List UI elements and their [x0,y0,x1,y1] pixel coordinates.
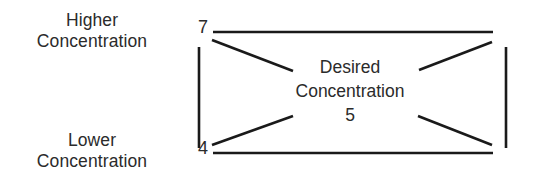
lower-concentration-line1: Lower [68,130,116,150]
desired-concentration-value: 5 [260,103,440,127]
higher-concentration-line2: Concentration [37,31,147,51]
upper-bound-value: 7 [186,17,208,38]
lower-concentration-line2: Concentration [37,151,147,171]
higher-concentration-line1: Higher [66,10,118,30]
lower-bound-value: 4 [186,138,208,159]
desired-concentration-line2: Concentration [260,79,440,103]
diagram-canvas: HigherConcentration LowerConcentration 7… [0,0,534,181]
desired-concentration-line1: Desired [260,55,440,79]
higher-concentration-label: HigherConcentration [2,10,182,51]
desired-concentration-block: Desired Concentration 5 [260,55,440,127]
lower-concentration-label: LowerConcentration [2,130,182,171]
